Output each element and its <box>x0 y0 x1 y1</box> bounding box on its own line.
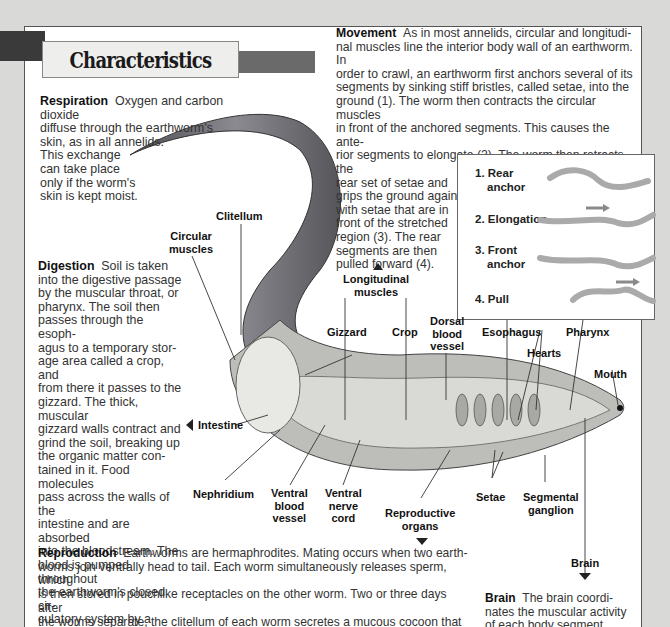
movement-steps-box: 1. Rear anchor 2. Elongation 3. Front an… <box>457 154 655 320</box>
arrow-down-icon <box>416 538 428 545</box>
label-hearts: Hearts <box>527 347 561 360</box>
arrow-left-icon <box>186 419 193 431</box>
worm-step4-icon <box>573 290 653 301</box>
respiration-heading: Respiration <box>40 94 108 108</box>
reproduction-heading: Reproduction <box>38 546 117 560</box>
arrow-up-icon <box>373 263 383 270</box>
brain-heading: Brain <box>485 591 516 605</box>
label-segmental-ganglion: Segmentalganglion <box>523 491 579 516</box>
label-intestine: Intestine <box>198 419 243 432</box>
label-crop: Crop <box>392 326 418 339</box>
arrow-down-icon <box>579 573 591 580</box>
label-ventral-blood-vessel: Ventralbloodvessel <box>271 487 308 525</box>
arrow-right-icon <box>603 204 610 212</box>
label-reproductive-organs: Reproductiveorgans <box>385 507 455 532</box>
label-ventral-nerve-cord: Ventralnervecord <box>325 487 362 525</box>
worm-step1-icon <box>550 170 648 187</box>
digestion-heading: Digestion <box>38 259 94 273</box>
label-nephridium: Nephridium <box>193 488 254 501</box>
movement-heading: Movement <box>336 26 396 40</box>
arrow-right-icon <box>633 278 640 286</box>
label-longitudinal-muscles: Longitudinalmuscles <box>343 273 409 298</box>
label-brain: Brain <box>571 557 599 570</box>
brain-section: Brain The brain coordi- nates the muscul… <box>485 592 635 627</box>
label-circular-muscles: Circularmuscles <box>169 230 213 255</box>
mouth-icon <box>617 405 623 411</box>
worm-cross-section <box>236 337 300 433</box>
label-mouth: Mouth <box>594 368 627 381</box>
label-dorsal-blood-vessel: Dorsalbloodvessel <box>430 315 464 353</box>
label-clitellum: Clitellum <box>216 210 262 223</box>
label-gizzard: Gizzard <box>327 326 367 339</box>
reproduction-section: Reproduction Earthworms are hermaphrodit… <box>38 547 468 627</box>
respiration-section: Respiration Oxygen and carbon dioxide di… <box>40 95 240 204</box>
worm-step2-icon <box>540 215 653 224</box>
worm-step3-icon <box>540 258 653 266</box>
label-setae: Setae <box>476 491 505 504</box>
label-pharynx: Pharynx <box>566 326 609 339</box>
worm-step-illustrations <box>458 155 656 321</box>
label-esophagus: Esophagus <box>482 326 541 339</box>
